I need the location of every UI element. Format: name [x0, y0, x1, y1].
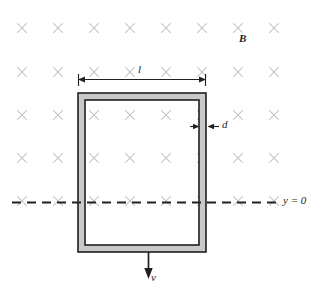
dimension-line-l — [78, 74, 206, 86]
arrowhead-left — [78, 77, 85, 83]
label-velocity: v — [151, 272, 156, 283]
annotations — [0, 0, 327, 295]
physics-figure: B l d y = 0 v — [0, 0, 327, 295]
label-loop-width: l — [138, 64, 141, 75]
arrowhead-d-left — [208, 124, 215, 130]
label-loop-thickness: d — [222, 119, 228, 130]
arrowhead-d-right — [193, 124, 200, 130]
label-magnetic-field: B — [239, 33, 246, 44]
label-y-zero-axis: y = 0 — [283, 195, 306, 206]
dimension-line-d — [190, 124, 219, 130]
